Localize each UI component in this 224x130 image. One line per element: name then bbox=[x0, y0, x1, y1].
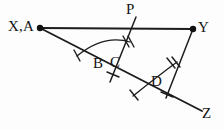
line-p-transversal bbox=[110, 17, 136, 82]
label-point-b: B bbox=[93, 56, 103, 71]
label-point-y: Y bbox=[198, 20, 209, 35]
label-point-z: Z bbox=[202, 106, 211, 121]
segment-cd-tick bbox=[130, 90, 138, 100]
label-point-d: D bbox=[151, 74, 162, 89]
geometry-figure: X,A Y P B C D Z bbox=[0, 0, 224, 130]
label-point-xa: X,A bbox=[8, 19, 34, 34]
label-point-c: C bbox=[110, 55, 120, 70]
segment-xy bbox=[40, 28, 193, 29]
vertex-dot-xa bbox=[37, 25, 43, 31]
label-point-p: P bbox=[126, 2, 135, 17]
vertex-dot-y bbox=[190, 26, 196, 32]
line-y-transversal bbox=[166, 29, 193, 98]
segment-ab-tick bbox=[74, 50, 80, 61]
